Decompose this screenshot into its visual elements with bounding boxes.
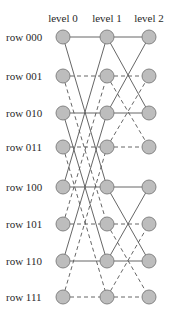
level-label: level 1 (92, 12, 122, 24)
row-label: row 010 (6, 107, 43, 119)
row-label: row 101 (6, 218, 42, 230)
node-level2-row6 (142, 254, 156, 268)
node-level1-row7 (100, 290, 114, 304)
node-level1-row6 (100, 254, 114, 268)
node-level0-row0 (56, 30, 70, 44)
node-level0-row5 (56, 217, 70, 231)
node-level0-row3 (56, 140, 70, 154)
level-label: level 2 (134, 12, 164, 24)
node-level1-row1 (100, 69, 114, 83)
node-level2-row4 (142, 180, 156, 194)
level-labels: level 0level 1level 2 (48, 12, 164, 24)
row-label: row 111 (6, 291, 42, 303)
butterfly-network-diagram: level 0level 1level 2 row 000row 001row … (0, 0, 193, 317)
node-level0-row4 (56, 180, 70, 194)
row-label: row 001 (6, 70, 42, 82)
node-level2-row2 (142, 106, 156, 120)
node-level1-row3 (100, 140, 114, 154)
row-label: row 000 (6, 31, 43, 43)
row-labels: row 000row 001row 010row 011row 100row 1… (6, 31, 43, 303)
nodes (56, 30, 156, 304)
node-level1-row0 (100, 30, 114, 44)
node-level0-row6 (56, 254, 70, 268)
node-level1-row5 (100, 217, 114, 231)
row-label: row 011 (6, 141, 42, 153)
node-level2-row0 (142, 30, 156, 44)
row-label: row 100 (6, 181, 43, 193)
node-level2-row5 (142, 217, 156, 231)
level-label: level 0 (48, 12, 78, 24)
row-label: row 110 (6, 255, 42, 267)
node-level0-row1 (56, 69, 70, 83)
node-level1-row2 (100, 106, 114, 120)
node-level2-row3 (142, 140, 156, 154)
node-level2-row1 (142, 69, 156, 83)
node-level1-row4 (100, 180, 114, 194)
node-level2-row7 (142, 290, 156, 304)
node-level0-row2 (56, 106, 70, 120)
node-level0-row7 (56, 290, 70, 304)
